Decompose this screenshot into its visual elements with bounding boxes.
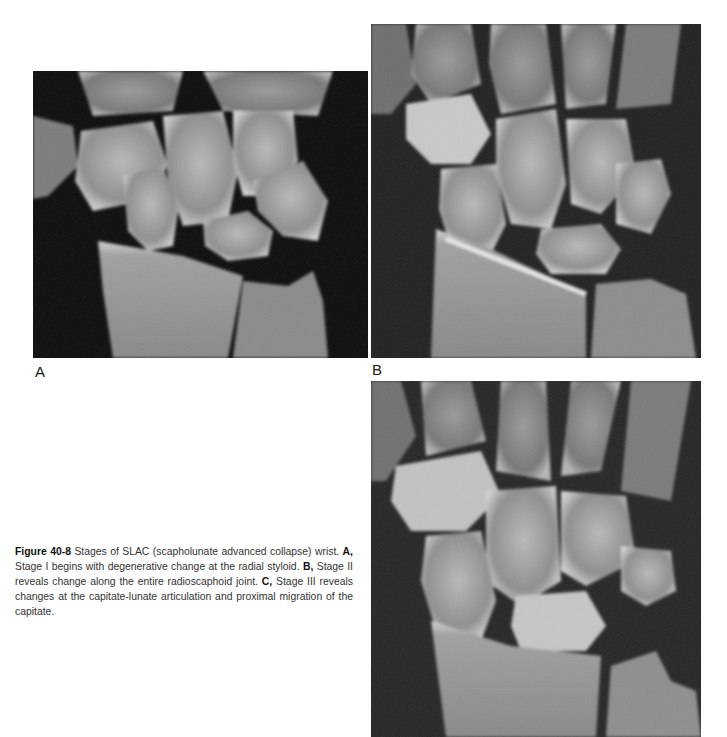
xray-panel-b xyxy=(371,24,701,358)
xray-image-b xyxy=(371,24,701,358)
figure-caption: Figure 40-8 Stages of SLAC (scapholunate… xyxy=(15,544,353,619)
xray-panel-c xyxy=(371,381,701,737)
xray-panel-a xyxy=(33,71,368,358)
caption-desc-a: Stage I begins with degenerative change … xyxy=(15,561,303,572)
figure-title: Stages of SLAC (scapholunate advanced co… xyxy=(71,546,343,557)
xray-image-c xyxy=(371,381,701,737)
caption-label-c: C, xyxy=(262,576,272,587)
caption-label-a: A, xyxy=(343,546,353,557)
panel-label-b: B xyxy=(372,361,382,378)
xray-image-a xyxy=(33,71,368,358)
caption-label-b: B, xyxy=(303,561,313,572)
figure-number: Figure 40-8 xyxy=(15,546,71,557)
panel-label-a: A xyxy=(35,363,45,380)
